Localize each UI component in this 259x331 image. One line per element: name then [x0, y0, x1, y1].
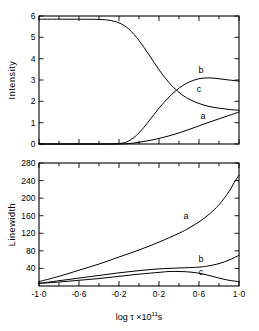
curve-label-b: b [198, 254, 203, 264]
x-axis-title: log τ ×1011s [116, 311, 163, 322]
y-tick-label: 6 [31, 11, 36, 21]
x-tick-label: 0·2 [153, 289, 166, 299]
y-tick-label: 0 [31, 139, 36, 149]
y-tick-label: 4 [31, 54, 36, 64]
curve-label-a: a [183, 211, 188, 221]
curve-label-c: c [199, 267, 204, 277]
x-tick-label: -1·0 [31, 289, 46, 299]
y-tick-label: 240 [21, 176, 35, 186]
panel-top: 0123456abc [31, 11, 239, 149]
y-tick-label: 1 [31, 118, 36, 128]
y-axis-title-top: Intensity [7, 61, 17, 100]
curve-b [39, 255, 239, 283]
x-tick-label: -0·2 [111, 289, 126, 299]
y-tick-label: 2 [31, 96, 36, 106]
curve-a [39, 112, 239, 144]
y-tick-label: 200 [21, 193, 35, 203]
two-panel-line-chart: 0123456abcIntensity4080120160200240280-1… [0, 0, 259, 331]
x-tick-label: 0·6 [193, 289, 206, 299]
curve-label-b: b [198, 65, 203, 75]
plot-frame [39, 16, 239, 144]
y-tick-label: 80 [26, 246, 36, 256]
y-tick-label: 40 [26, 263, 36, 273]
y-tick-label: 120 [21, 228, 35, 238]
figure-container: 0123456abcIntensity4080120160200240280-1… [0, 0, 259, 331]
y-tick-label: 280 [21, 158, 35, 168]
x-tick-label: 1·0 [233, 289, 246, 299]
y-tick-label: 160 [21, 211, 35, 221]
y-tick-label: 3 [31, 75, 36, 85]
curve-label-a: a [200, 111, 205, 121]
panel-bottom: 4080120160200240280-1·0-0·6-0·20·20·61·0… [21, 158, 245, 299]
curve-b [39, 78, 239, 144]
x-tick-label: -0·6 [71, 289, 86, 299]
y-tick-label: 5 [31, 32, 36, 42]
y-axis-title-bottom: Linewidth [7, 203, 17, 246]
curve-c [39, 19, 239, 110]
plot-frame [39, 163, 239, 286]
curve-label-c: c [197, 84, 202, 94]
